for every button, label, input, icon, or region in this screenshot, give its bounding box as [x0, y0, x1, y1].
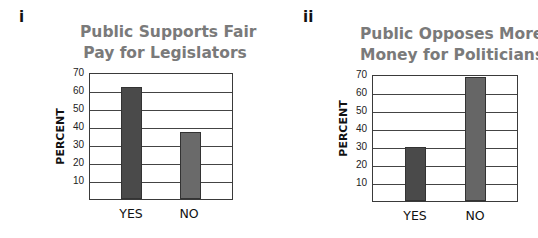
- bar-yes: [121, 87, 142, 199]
- chart-i-x-label-yes: YES: [111, 206, 151, 221]
- y-tick-label: 40: [347, 123, 367, 134]
- chart-ii-title-line-1: Public Opposes More: [360, 24, 535, 45]
- chart-i-title-line-1: Public Supports Fair: [80, 22, 250, 43]
- gridline: [373, 94, 517, 95]
- gridline: [373, 130, 517, 131]
- y-tick-label: 10: [347, 177, 367, 188]
- y-tick-label: 70: [64, 67, 84, 78]
- gridline: [90, 164, 232, 165]
- y-tick-label: 50: [64, 103, 84, 114]
- y-tick-label: 30: [347, 141, 367, 152]
- panel-label-ii: ii: [303, 8, 313, 26]
- y-tick-label: 30: [64, 139, 84, 150]
- chart-ii-title-line-2: Money for Politicians: [360, 45, 535, 66]
- bar-yes: [405, 147, 426, 201]
- gridline: [90, 128, 232, 129]
- y-tick-label: 40: [64, 121, 84, 132]
- y-tick-label: 10: [64, 175, 84, 186]
- y-tick-label: 20: [64, 157, 84, 168]
- gridline: [373, 148, 517, 149]
- gridline: [373, 166, 517, 167]
- chart-ii-x-label-yes: YES: [395, 208, 435, 223]
- y-tick-label: 70: [347, 69, 367, 80]
- y-tick-label: 60: [347, 87, 367, 98]
- gridline: [90, 146, 232, 147]
- gridline: [90, 182, 232, 183]
- panel-label-i: i: [19, 8, 24, 26]
- gridline: [90, 92, 232, 93]
- gridline: [90, 110, 232, 111]
- gridline: [373, 112, 517, 113]
- chart-i-plot-area: [89, 73, 233, 200]
- y-tick-label: 60: [64, 85, 84, 96]
- bar-no: [465, 77, 486, 201]
- chart-ii-plot-area: [372, 75, 518, 202]
- gridline: [373, 184, 517, 185]
- chart-i-x-label-no: NO: [169, 206, 209, 221]
- chart-ii-x-label-no: NO: [455, 208, 495, 223]
- y-tick-label: 50: [347, 105, 367, 116]
- chart-i-title-line-2: Pay for Legislators: [80, 43, 250, 64]
- bar-no: [180, 132, 201, 199]
- y-tick-label: 20: [347, 159, 367, 170]
